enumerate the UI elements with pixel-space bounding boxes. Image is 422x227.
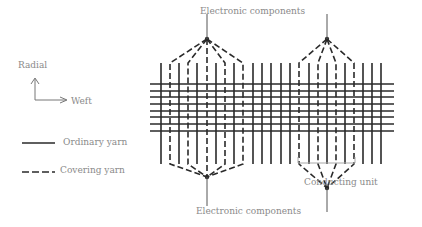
- covering-yarn: [318, 39, 327, 188]
- yarn-circuit-diagram: Electronic components Electronic compone…: [0, 0, 422, 227]
- legend-ordinary-label: Ordinary yarn: [63, 137, 127, 147]
- weft-axis-label: Weft: [71, 96, 92, 106]
- covering-yarn: [327, 39, 336, 188]
- axis-direction-icon: [31, 78, 67, 103]
- bottom-components-label: Electronic components: [196, 206, 301, 216]
- top-components-label: Electronic components: [200, 6, 305, 16]
- conducting-unit-label: Conducting unit: [304, 177, 378, 187]
- legend-covering-label: Covering yarn: [60, 165, 125, 175]
- covering-yarn: [327, 39, 354, 188]
- woven-grid: [150, 63, 394, 164]
- covering-yarn: [299, 39, 327, 188]
- radial-axis-label: Radial: [18, 60, 47, 70]
